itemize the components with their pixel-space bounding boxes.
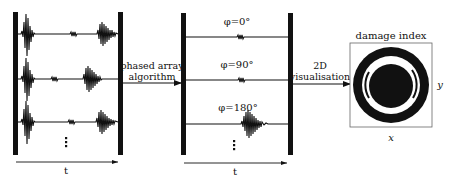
x-axis-label: x — [388, 132, 394, 143]
arrow-2-label-line-2: visualisation — [289, 71, 350, 82]
phase-label-90: φ=90° — [220, 59, 253, 70]
time-axis-label: t — [233, 166, 237, 177]
arrow-2-label-line-1: 2D — [313, 60, 327, 71]
beamformed-signals-panel: φ=0° φ=90° φ=180° t — [181, 13, 293, 177]
right-boundary-bar — [118, 12, 123, 155]
damage-index-image: damage index y x — [350, 30, 443, 143]
arrow-1-label-line-2: algorithm — [128, 71, 175, 82]
phase-label-0: φ=0° — [224, 16, 251, 27]
arrow-1-label-line-1: phased array — [120, 60, 184, 71]
signal-row-2 — [18, 58, 118, 101]
damage-core — [369, 64, 413, 108]
visualisation-arrow: 2D visualisation — [289, 60, 350, 84]
phased-array-algorithm-arrow: phased array algorithm — [120, 60, 184, 83]
left-boundary-bar — [13, 12, 18, 155]
signal-row-3 — [18, 101, 118, 144]
raw-signals-panel: t — [13, 12, 123, 176]
right-boundary-bar — [288, 13, 293, 155]
beamformed-signal-0 — [186, 35, 288, 39]
more-phases-ellipsis — [233, 140, 235, 150]
signal-row-1 — [18, 14, 118, 56]
damage-index-title: damage index — [356, 30, 427, 41]
beamformed-signal-90 — [186, 78, 288, 82]
phased-array-diagram: t phased array algorithm φ=0° φ=90° φ=18… — [0, 0, 455, 183]
more-signals-ellipsis — [65, 137, 67, 147]
left-boundary-bar — [181, 13, 186, 155]
phase-label-180: φ=180° — [218, 102, 257, 113]
y-axis-label: y — [436, 79, 443, 90]
time-axis-label: t — [64, 165, 68, 176]
beamformed-signal-180 — [186, 110, 288, 138]
